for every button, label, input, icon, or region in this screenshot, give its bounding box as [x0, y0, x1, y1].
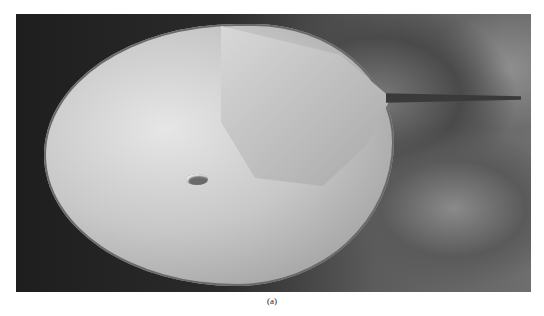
- crab-eye: [186, 174, 208, 185]
- figure-caption: (a): [0, 296, 544, 306]
- horseshoe-crab-photo: [16, 14, 531, 292]
